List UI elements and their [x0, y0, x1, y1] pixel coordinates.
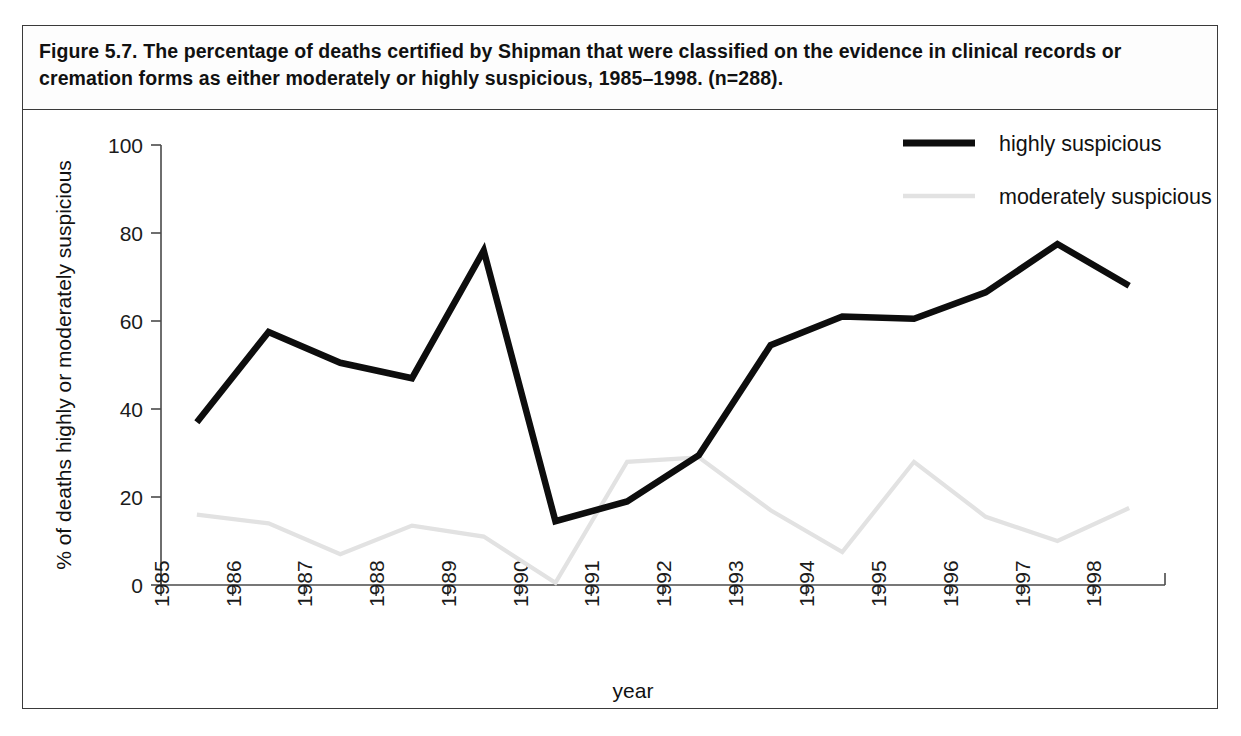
x-axis-tick-label: 1991 [580, 560, 603, 607]
x-axis-tick-label: 1985 [150, 560, 173, 607]
x-axis-tick-label: 1986 [222, 560, 245, 607]
legend-label: highly suspicious [999, 132, 1162, 156]
y-axis-tick-label: 40 [120, 398, 143, 421]
plot-area: 0204060801001985198619871988198919901991… [23, 110, 1217, 709]
figure-frame: Figure 5.7. The percentage of deaths cer… [22, 25, 1218, 709]
x-axis-tick-label: 1992 [652, 560, 675, 607]
y-axis-tick-label: 100 [108, 134, 143, 157]
chart-series [197, 244, 1129, 583]
x-axis-tick-label: 1996 [939, 560, 962, 607]
y-axis-title: % of deaths highly or moderately suspici… [52, 160, 75, 570]
x-axis-tick-label: 1998 [1082, 560, 1105, 607]
y-axis-tick-label: 60 [120, 310, 143, 333]
figure-caption: Figure 5.7. The percentage of deaths cer… [39, 38, 1199, 92]
line-chart: 0204060801001985198619871988198919901991… [23, 110, 1217, 708]
x-axis-tick-label: 1995 [867, 560, 890, 607]
x-axis-title: year [613, 679, 654, 702]
x-axis-tick-label: 1987 [293, 560, 316, 607]
y-axis-tick-label: 80 [120, 222, 143, 245]
series-line-highly-suspicious [197, 244, 1129, 521]
x-axis-tick-label: 1989 [437, 560, 460, 607]
y-axis-tick-label: 20 [120, 486, 143, 509]
x-axis-tick-label: 1988 [365, 560, 388, 607]
x-axis-tick-label: 1993 [724, 560, 747, 607]
figure-page: Figure 5.7. The percentage of deaths cer… [0, 0, 1241, 736]
chart-legend: highly suspiciousmoderately suspicious [903, 132, 1212, 209]
x-axis-tick-label: 1997 [1011, 560, 1034, 607]
figure-caption-band: Figure 5.7. The percentage of deaths cer… [23, 26, 1217, 110]
y-axis-tick-label: 0 [131, 574, 143, 597]
legend-label: moderately suspicious [999, 185, 1212, 209]
x-axis-tick-label: 1994 [795, 560, 818, 607]
